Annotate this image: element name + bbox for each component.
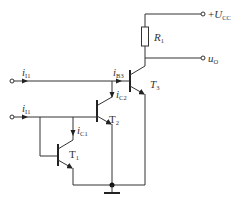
supply-label: +UCC [208,8,231,21]
resistor-r1 [142,27,149,46]
current-iC1-label: iC1 [77,124,88,137]
iI1-bottom-arrow-icon [22,115,28,120]
output-terminal [201,56,205,60]
transistor-t3 [130,66,145,185]
current-iI1-bottom-label: iI1 [22,102,30,115]
transistor-t2 [97,81,115,185]
supply-branch [142,12,206,66]
resistor-label: R1 [153,31,164,44]
supply-terminal [201,12,205,16]
current-iC2-label: iC2 [116,88,127,101]
t2-collector [98,97,112,105]
ground-bus [73,183,145,194]
input-top-terminal [10,79,14,83]
input-bottom-terminal [10,115,14,119]
current-iI1-top-label: iI1 [22,66,30,79]
iB3-arrow-icon [116,79,122,84]
output-label: uO [208,52,219,65]
t3-emitter [130,86,144,94]
current-iB3-label: iB3 [113,66,124,79]
iI1-top-arrow-icon [22,79,28,84]
t3-label: T3 [150,78,159,91]
t1-label: T1 [69,148,79,161]
iC1-arrow-icon [71,130,76,136]
t1-emitter [58,160,72,168]
transistor-t1 [58,140,73,185]
t3-collector [130,66,145,75]
t2-label: T2 [109,113,119,126]
circuit-diagram: +UCC uO R1 T3 T2 T1 iI1 iB3 iC2 iI1 iC1 [0,0,233,212]
